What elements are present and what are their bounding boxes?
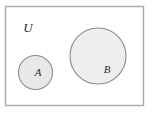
set-b-circle	[70, 28, 126, 84]
set-b-label: B	[104, 63, 111, 75]
euler-diagram-figure: U A B	[0, 0, 152, 116]
universal-set-label: U	[23, 20, 34, 35]
set-a-label: A	[34, 66, 42, 78]
venn-diagram-canvas: U A B	[0, 0, 152, 116]
